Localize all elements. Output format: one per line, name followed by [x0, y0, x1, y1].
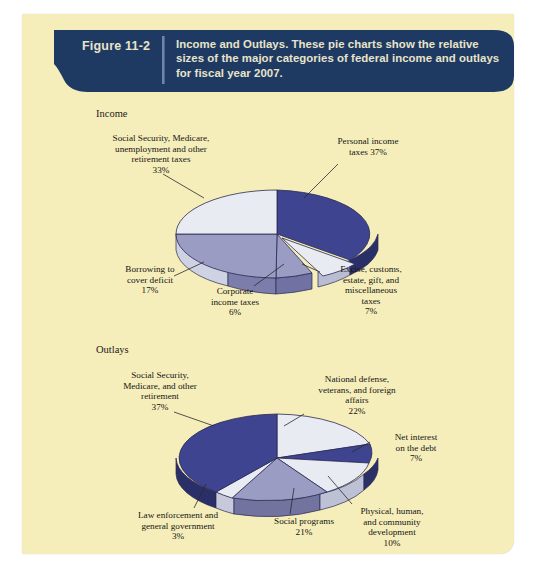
- income-slice-social-security-taxes: [176, 190, 277, 234]
- outlays-label-physical-human: Physical, human, and community developme…: [340, 506, 444, 548]
- figure-number: Figure 11-2: [82, 39, 150, 53]
- outlays-label-social-programs: Social programs 21%: [254, 516, 354, 537]
- income-label-excise: Excise, customs, estate, gift, and misce…: [322, 264, 420, 317]
- outlays-label-national-defense: National defense, veterans, and foreign …: [294, 374, 420, 416]
- section-title-outlays: Outlays: [96, 344, 129, 355]
- income-label-corporate-income-taxes: Corporate income taxes 6%: [194, 286, 276, 318]
- income-label-social-security: Social Security, Medicare, unemployment …: [92, 133, 230, 175]
- outlays-label-law-enforcement: Law enforcement and general government 3…: [114, 510, 242, 542]
- income-label-borrowing: Borrowing to cover deficit 17%: [107, 264, 193, 296]
- outlays-label-net-interest: Net interest on the debt 7%: [372, 432, 460, 464]
- figure-page: Figure 11-2 Income and Outlays. These pi…: [22, 14, 514, 554]
- figure-caption: Income and Outlays. These pie charts sho…: [176, 37, 506, 80]
- outlays-label-social-security: Social Security, Medicare, and other ret…: [94, 370, 226, 412]
- figure-banner: Figure 11-2 Income and Outlays. These pi…: [54, 30, 514, 92]
- income-label-personal-income-taxes: Personal income taxes 37%: [314, 136, 422, 157]
- section-title-income: Income: [96, 108, 128, 119]
